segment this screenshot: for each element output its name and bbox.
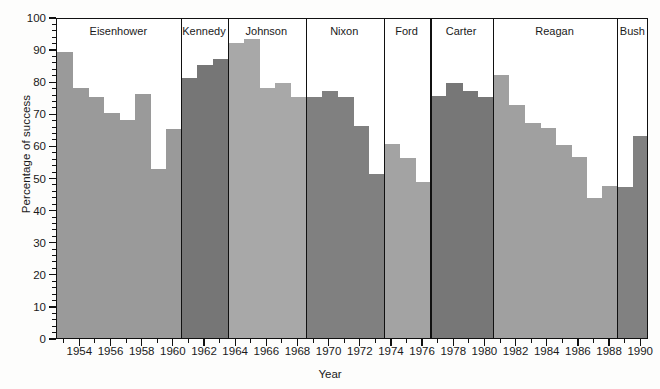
bar: [244, 39, 260, 338]
y-tick-major: [49, 178, 56, 179]
x-axis: 1954195619581960196219641966196819701972…: [56, 339, 648, 379]
x-tick-minor: [562, 339, 563, 343]
bar: [587, 198, 603, 338]
president-label: Carter: [446, 25, 477, 37]
y-tick-major: [49, 210, 56, 211]
y-tick-label: 90: [18, 44, 46, 56]
bar: [353, 126, 369, 338]
president-label: Johnson: [246, 25, 288, 37]
president-label: Nixon: [330, 25, 358, 37]
bar: [57, 52, 73, 338]
y-tick-major: [49, 146, 56, 147]
bar: [400, 158, 416, 338]
x-tick-minor: [188, 339, 189, 343]
president-separator: [181, 19, 182, 338]
bar: [571, 157, 587, 338]
x-tick-minor: [344, 339, 345, 343]
y-tick-major: [49, 338, 56, 339]
bar: [291, 97, 307, 338]
bar: [633, 136, 648, 338]
bar: [119, 120, 135, 338]
bar: [73, 88, 89, 338]
bar: [540, 128, 556, 338]
bar: [493, 75, 509, 338]
bar: [618, 187, 634, 338]
y-tick-label: 70: [18, 108, 46, 120]
x-tick-minor: [624, 339, 625, 343]
president-label: Bush: [620, 25, 645, 37]
bar: [415, 182, 431, 338]
bar: [446, 83, 462, 338]
president-separator: [617, 19, 618, 338]
y-tick-major: [49, 17, 56, 18]
bar: [260, 88, 276, 338]
bar: [182, 78, 198, 338]
y-tick-label: 0: [18, 333, 46, 345]
x-tick-minor: [375, 339, 376, 343]
plot-area: [56, 18, 648, 339]
president-label: Reagan: [535, 25, 574, 37]
y-tick-label: 100: [18, 12, 46, 24]
x-tick-minor: [531, 339, 532, 343]
bar: [369, 174, 385, 338]
bar: [322, 91, 338, 338]
bar: [509, 105, 525, 338]
president-separator: [384, 19, 385, 338]
bar: [306, 97, 322, 338]
y-tick-major: [49, 242, 56, 243]
president-separator: [228, 19, 229, 338]
bar: [213, 59, 229, 338]
x-tick-minor: [157, 339, 158, 343]
x-tick-minor: [437, 339, 438, 343]
president-label: Ford: [395, 25, 418, 37]
x-tick-minor: [281, 339, 282, 343]
x-tick-label: 1990: [620, 345, 660, 357]
y-tick-label: 50: [18, 173, 46, 185]
x-tick-minor: [468, 339, 469, 343]
y-tick-label: 30: [18, 237, 46, 249]
y-tick-major: [49, 114, 56, 115]
y-tick-major: [49, 49, 56, 50]
bar: [228, 43, 244, 338]
bar: [462, 91, 478, 338]
x-tick-minor: [500, 339, 501, 343]
y-tick-label: 40: [18, 205, 46, 217]
y-tick-label: 60: [18, 140, 46, 152]
bar: [197, 65, 213, 338]
bar: [602, 186, 618, 338]
bar: [275, 83, 291, 338]
y-tick-label: 20: [18, 269, 46, 281]
bar: [88, 97, 104, 338]
y-tick-label: 80: [18, 76, 46, 88]
bar: [166, 129, 182, 338]
x-tick-minor: [126, 339, 127, 343]
president-label: Kennedy: [182, 25, 225, 37]
y-tick-label: 10: [18, 301, 46, 313]
bar: [104, 113, 120, 338]
bar: [431, 96, 447, 338]
x-tick-minor: [94, 339, 95, 343]
y-axis: 0102030405060708090100: [0, 18, 56, 339]
x-tick-minor: [593, 339, 594, 343]
bar: [150, 169, 166, 338]
x-tick-minor: [406, 339, 407, 343]
bar: [135, 94, 151, 338]
x-tick-minor: [63, 339, 64, 343]
x-tick-minor: [250, 339, 251, 343]
president-separator: [493, 19, 494, 338]
x-tick-minor: [219, 339, 220, 343]
president-separator: [306, 19, 307, 338]
bar: [384, 144, 400, 338]
bar: [556, 145, 572, 338]
chart-figure: Percentage of success Year 0102030405060…: [0, 0, 660, 389]
president-separator: [430, 19, 431, 338]
bar: [337, 97, 353, 338]
y-tick-major: [49, 274, 56, 275]
president-label: Eisenhower: [90, 25, 147, 37]
bar: [524, 123, 540, 338]
x-tick-minor: [313, 339, 314, 343]
y-tick-major: [49, 82, 56, 83]
bar: [478, 97, 494, 338]
y-tick-major: [49, 306, 56, 307]
